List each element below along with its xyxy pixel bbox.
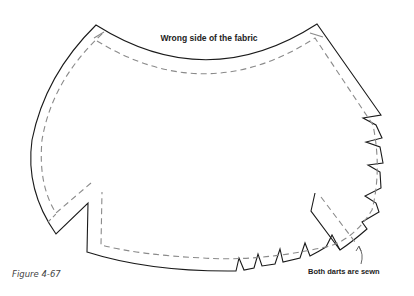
pattern-cut-outline [31, 24, 383, 271]
figure-caption: Figure 4-67 [12, 269, 61, 279]
stitching-line-left [41, 33, 103, 213]
fabric-side-label: Wrong side of the fabric [0, 33, 414, 43]
dart-annotation-label: Both darts are sewn [308, 267, 380, 276]
stitching-line-left-dart [48, 212, 58, 222]
stitching-line [97, 38, 377, 259]
arrow-head-icon [356, 246, 361, 251]
pattern-piece-drawing [0, 0, 414, 296]
